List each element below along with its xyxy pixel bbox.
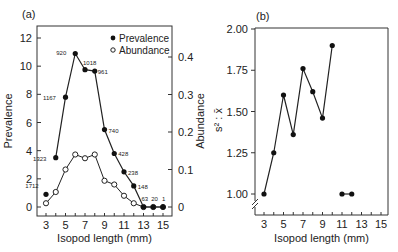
abundance-point — [73, 152, 78, 157]
ratio-point — [320, 116, 325, 121]
x-tick-label: 5 — [280, 218, 286, 230]
y2-tick-label: 0.2 — [178, 126, 193, 138]
x-tick-label: 13 — [137, 219, 149, 231]
y-axis-label: Prevalence — [2, 93, 14, 148]
point-label: 428 — [118, 151, 129, 157]
prevalence-point — [160, 204, 165, 209]
point-label: 1323 — [33, 156, 47, 162]
x-axis-label: Isopod length (mm) — [274, 232, 369, 244]
legend-prevalence-marker — [111, 36, 116, 41]
y-tick-label: 8 — [26, 88, 32, 100]
prevalence-point — [141, 204, 146, 209]
y-tick-label: 1.50 — [227, 106, 248, 118]
prevalence-point — [151, 204, 156, 209]
x-tick-label: 15 — [375, 218, 387, 230]
point-label: 148 — [138, 184, 149, 190]
point-label: 920 — [56, 50, 67, 56]
x-tick-label: 3 — [261, 218, 267, 230]
panel-a-label: (a) — [22, 8, 35, 20]
prevalence-point — [43, 192, 48, 197]
legend-abundance-label: Abundance — [119, 45, 170, 56]
y-tick-label: 1.00 — [227, 188, 248, 200]
point-label: 1712 — [25, 183, 39, 189]
ratio-point — [291, 132, 296, 137]
y-tick-label: 1.75 — [227, 64, 248, 76]
y-tick-label: 6 — [26, 117, 32, 129]
ratio-point — [261, 191, 266, 196]
abundance-point — [102, 178, 107, 183]
x-tick-label: 5 — [62, 219, 68, 231]
point-label: 1167 — [43, 95, 57, 101]
y2-axis-label: Abundance — [194, 93, 206, 149]
ratio-point — [271, 150, 276, 155]
ratio-point — [339, 191, 344, 196]
y-tick-label: 4 — [26, 145, 32, 157]
abundance-point — [63, 167, 68, 172]
y-tick-label: 12 — [20, 32, 32, 44]
ratio-point — [310, 89, 315, 94]
ratio-point — [330, 43, 335, 48]
y-tick-label: 2.00 — [227, 23, 248, 35]
x-tick-label: 11 — [118, 219, 129, 231]
prevalence-point — [131, 183, 136, 188]
prevalence-point — [121, 169, 126, 174]
prevalence-point — [53, 155, 58, 160]
x-tick-label: 3 — [43, 219, 49, 231]
abundance-point — [112, 182, 117, 187]
panel-a-chart: 02468101200.10.20.30.43579111315Isopod l… — [2, 26, 206, 244]
y-tick-label: 10 — [20, 60, 32, 72]
abundance-point — [131, 201, 136, 206]
figure: 02468101200.10.20.30.43579111315Isopod l… — [0, 0, 398, 252]
abundance-point — [121, 193, 126, 198]
x-tick-label: 11 — [336, 218, 347, 230]
x-axis-label: Isopod length (mm) — [57, 232, 152, 244]
point-label: 20 — [151, 196, 158, 202]
plot-frame — [255, 28, 388, 215]
x-tick-label: 7 — [82, 219, 88, 231]
y2-tick-label: 0.3 — [178, 89, 193, 101]
point-label: 1 — [162, 196, 166, 202]
abundance-point — [43, 201, 48, 206]
prevalence-point — [63, 95, 68, 100]
x-tick-label: 9 — [101, 219, 107, 231]
point-label: 1018 — [83, 60, 97, 66]
x-tick-label: 9 — [319, 218, 325, 230]
y-tick-label: 1.25 — [227, 147, 248, 159]
panel-b-chart: 1.001.251.501.752.003579111315Isopod len… — [212, 23, 388, 244]
abundance-point — [53, 189, 58, 194]
point-label: 63 — [142, 196, 149, 202]
x-tick-label: 7 — [300, 218, 306, 230]
y2-tick-label: 0.4 — [178, 51, 193, 63]
point-label: 238 — [128, 170, 139, 176]
y2-tick-label: 0 — [178, 201, 184, 213]
legend-abundance-marker — [111, 48, 115, 52]
prevalence-point — [92, 68, 97, 73]
y2-tick-label: 0.1 — [178, 164, 193, 176]
y-axis-label: s² : x̄ — [212, 108, 224, 132]
ratio-point — [281, 92, 286, 97]
x-tick-label: 15 — [157, 219, 169, 231]
abundance-point — [82, 156, 87, 161]
legend-prevalence-label: Prevalence — [119, 33, 169, 44]
point-label: 961 — [98, 69, 109, 75]
x-tick-label: 13 — [355, 218, 367, 230]
panel-b-label: (b) — [256, 10, 269, 22]
prevalence-point — [112, 151, 117, 156]
prevalence-point — [73, 51, 78, 56]
ratio-point — [300, 66, 305, 71]
point-label: 740 — [109, 128, 120, 134]
prevalence-point — [102, 127, 107, 132]
ratio-point — [349, 191, 354, 196]
y-tick-label: 0 — [26, 201, 32, 213]
abundance-point — [92, 152, 97, 157]
prevalence-point — [82, 67, 87, 72]
